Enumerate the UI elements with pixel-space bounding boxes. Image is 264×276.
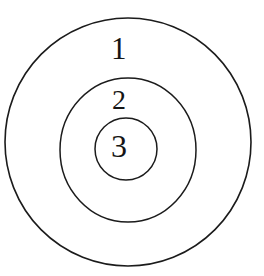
circles-canvas: [0, 0, 264, 276]
middle-circle-label: 2: [112, 86, 126, 114]
outer-circle-label: 1: [111, 33, 127, 64]
concentric-circles-diagram: 1 2 3: [0, 0, 264, 276]
inner-circle-label: 3: [111, 130, 127, 162]
canvas-background: [0, 0, 264, 276]
